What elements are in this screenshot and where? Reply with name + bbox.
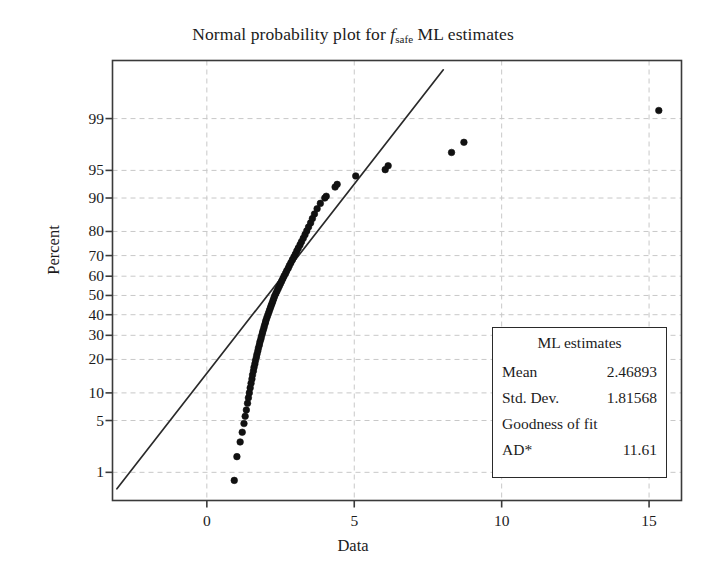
legend-mean-label: Mean xyxy=(502,359,537,385)
x-axis-tick-marks xyxy=(207,501,649,508)
normal-probability-plot-figure: Normal probability plot for fsafe ML est… xyxy=(0,0,706,579)
legend-mean-value: 2.46893 xyxy=(607,359,657,385)
legend-row-ad: AD* 11.61 xyxy=(502,437,657,463)
ml-estimates-legend: ML estimates Mean 2.46893 Std. Dev. 1.81… xyxy=(492,327,667,478)
legend-row-goodness-of-fit: Goodness of fit xyxy=(502,411,657,437)
legend-ad-label: AD* xyxy=(502,437,532,463)
legend-title: ML estimates xyxy=(502,334,657,352)
legend-stddev-value: 1.81568 xyxy=(607,385,657,411)
legend-gof-label: Goodness of fit xyxy=(502,415,598,432)
legend-stddev-label: Std. Dev. xyxy=(502,385,559,411)
y-axis-tick-marks xyxy=(106,119,113,473)
legend-ad-value: 11.61 xyxy=(623,437,657,463)
plot-canvas xyxy=(0,0,706,579)
legend-row-stddev: Std. Dev. 1.81568 xyxy=(502,385,657,411)
legend-row-mean: Mean 2.46893 xyxy=(502,359,657,385)
